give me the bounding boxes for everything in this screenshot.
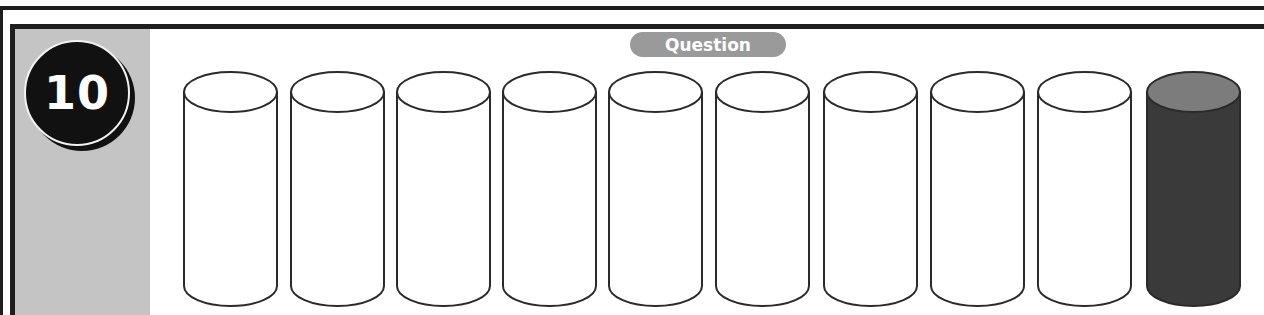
cylinder <box>397 72 490 306</box>
cylinder <box>1038 72 1131 306</box>
cylinder-shaded <box>1147 72 1240 306</box>
cylinder <box>824 72 917 306</box>
cylinder <box>716 72 809 306</box>
cylinder <box>503 72 596 306</box>
cylinder <box>291 72 384 306</box>
cylinder <box>931 72 1024 306</box>
cylinder <box>184 72 277 306</box>
cylinder-row <box>0 0 1264 315</box>
cylinder <box>609 72 702 306</box>
